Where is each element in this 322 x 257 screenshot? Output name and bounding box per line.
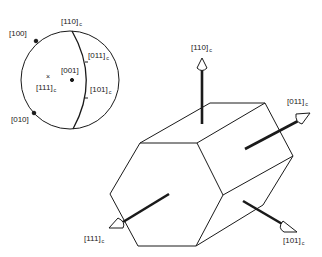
axis-110-arrowhead (197, 58, 207, 71)
axis-101-arrowhead (280, 221, 297, 232)
great-circle-arc (72, 31, 86, 129)
axis-label-011c: [011]c (287, 98, 308, 108)
label-011c: [011]c (88, 52, 109, 62)
pole-010-dot (32, 111, 36, 115)
axis-111-shaft (123, 194, 169, 222)
axis-011-shaft (245, 121, 298, 149)
hexagonal-prism (110, 103, 293, 246)
label-010: [010] (11, 116, 29, 124)
label-100: [100] (9, 30, 27, 38)
axis-label-110c: [110]c (191, 44, 212, 54)
axis-label-101c: [101]c (283, 237, 305, 247)
axis-111-arrowhead (109, 218, 124, 228)
label-101c: [101]c (90, 86, 112, 96)
label-110c: [110]c (61, 18, 82, 28)
stereogram (21, 31, 119, 129)
diagram-canvas (0, 0, 322, 257)
pole-100-dot (34, 39, 38, 43)
axis-011-arrowhead (296, 113, 310, 124)
pole-001-dot (70, 78, 73, 81)
axis-label-111c: [111]c (84, 235, 104, 245)
label-001: [001] (61, 67, 79, 75)
cross-marker: × (46, 73, 50, 80)
prism-right-edges (223, 103, 293, 195)
label-111c: [111]c (36, 84, 56, 94)
